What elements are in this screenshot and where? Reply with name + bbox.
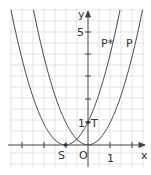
parabola-P-star: [11, 10, 120, 145]
y-tick-1: 1: [78, 117, 85, 130]
point-S: [64, 143, 68, 147]
labels: x y 5 1 1 O S T P* P: [58, 8, 148, 165]
origin-label: O: [79, 149, 88, 162]
y-label: y: [78, 8, 85, 21]
point-S-label: S: [58, 149, 65, 162]
curve-P-label: P: [126, 37, 133, 50]
curve-P-star-label: P*: [101, 37, 114, 50]
x-tick-1: 1: [107, 152, 114, 165]
x-axis-arrow-icon: [139, 143, 145, 148]
point-T-label: T: [90, 117, 98, 130]
coordinate-diagram: x y 5 1 1 O S T P* P: [0, 0, 151, 175]
y-tick-5: 5: [77, 26, 84, 39]
x-label: x: [141, 149, 148, 162]
y-axis-arrow-icon: [86, 11, 91, 17]
point-T: [86, 121, 90, 125]
